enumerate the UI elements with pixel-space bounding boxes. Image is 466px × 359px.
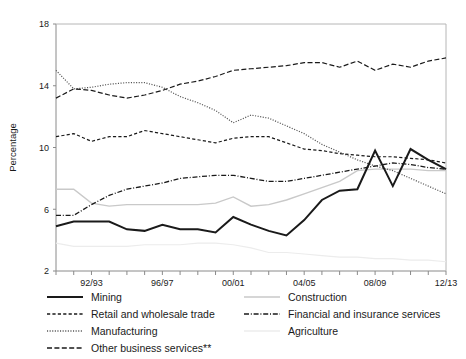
legend-swatch-agriculture: [243, 325, 281, 337]
legend-item: Manufacturing: [46, 322, 215, 339]
y-axis-title: Percentage: [7, 123, 18, 172]
legend-swatch-manufacturing: [46, 325, 84, 337]
legend-swatch-construction: [243, 291, 281, 303]
legend-item: Financial and insurance services: [243, 305, 440, 322]
series-line-retail-and-wholesale-trade: [56, 131, 446, 163]
x-tick-label: 04/05: [293, 278, 316, 288]
y-axis-ticks: 26101418: [39, 19, 56, 276]
chart-axes: [56, 24, 446, 271]
legend-label: Agriculture: [288, 325, 338, 337]
legend-label: Mining: [91, 291, 122, 303]
legend-label: Financial and insurance services: [288, 308, 440, 320]
legend-label: Construction: [288, 291, 347, 303]
y-tick-label: 10: [39, 143, 49, 153]
legend-item: Other business services**: [46, 339, 215, 356]
legend-column-right: ConstructionFinancial and insurance serv…: [243, 288, 440, 339]
series-line-other-business-services: [56, 58, 446, 98]
legend-swatch-mining: [46, 291, 84, 303]
legend-swatch-other-business-services: [46, 342, 84, 354]
legend-swatch-retail-and-wholesale-trade: [46, 308, 84, 320]
x-tick-label: 92/93: [80, 278, 103, 288]
x-tick-label: 96/97: [151, 278, 174, 288]
series-line-agriculture: [56, 243, 446, 262]
x-tick-label: 12/13: [435, 278, 458, 288]
y-tick-label: 14: [39, 81, 49, 91]
y-tick-label: 18: [39, 19, 49, 29]
chart-legend: MiningRetail and wholesale tradeManufact…: [0, 288, 466, 359]
legend-column-left: MiningRetail and wholesale tradeManufact…: [46, 288, 215, 356]
legend-label: Other business services**: [91, 342, 211, 354]
legend-swatch-financial-and-insurance-services: [243, 308, 281, 320]
legend-item: Mining: [46, 288, 215, 305]
x-tick-label: 08/09: [364, 278, 387, 288]
y-tick-label: 2: [44, 266, 49, 276]
series-line-mining: [56, 149, 446, 235]
line-chart: 2610141892/9396/9700/0104/0508/0912/13Pe…: [0, 0, 466, 290]
x-tick-label: 00/01: [222, 278, 245, 288]
legend-item: Construction: [243, 288, 440, 305]
legend-label: Manufacturing: [91, 325, 158, 337]
series-line-financial-and-insurance-services: [56, 163, 446, 215]
legend-label: Retail and wholesale trade: [91, 308, 215, 320]
x-axis-ticks: 92/9396/9700/0104/0508/0912/13: [56, 271, 457, 288]
y-tick-label: 6: [44, 205, 49, 215]
legend-item: Agriculture: [243, 322, 440, 339]
legend-item: Retail and wholesale trade: [46, 305, 215, 322]
